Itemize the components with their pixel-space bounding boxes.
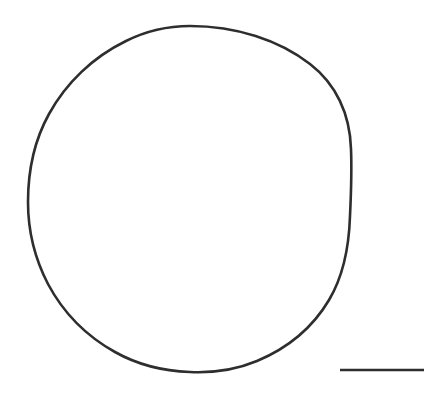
figure-background xyxy=(0,0,446,396)
figure-canvas xyxy=(0,0,446,396)
figure-vector-layer xyxy=(0,0,446,396)
